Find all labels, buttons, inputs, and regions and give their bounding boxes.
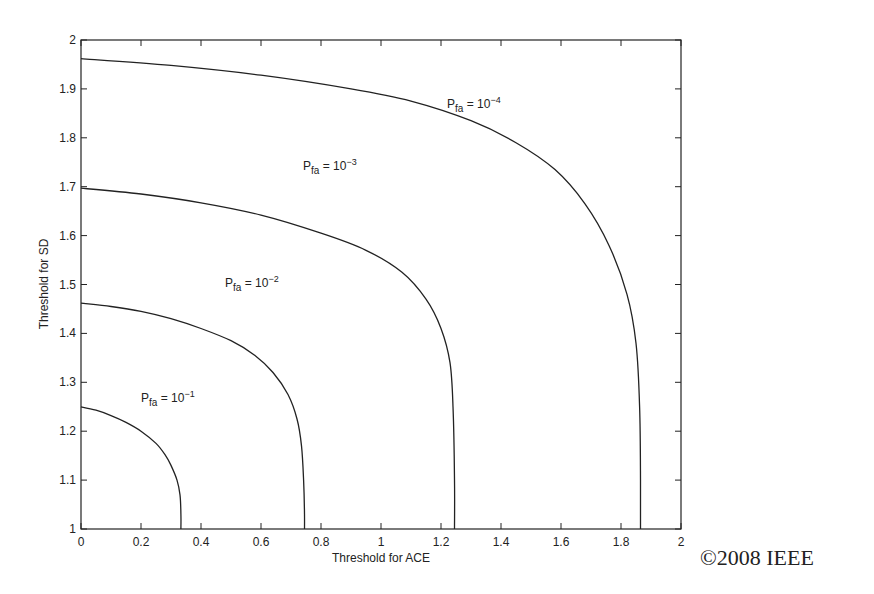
x-tick-label: 1.8: [613, 535, 630, 549]
y-tick-label: 1.1: [59, 473, 76, 487]
x-tick-label: 0.6: [253, 535, 270, 549]
x-tick-label: 0.4: [193, 535, 210, 549]
plot-frame: [81, 40, 681, 529]
curve-label: Pfa = 10−3: [303, 157, 357, 176]
y-tick-label: 1.2: [59, 424, 76, 438]
curve-pfa-3: [81, 188, 455, 529]
y-axis-label: Threshold for SD: [37, 238, 51, 329]
y-tick-label: 1.9: [59, 82, 76, 96]
x-tick-label: 0.8: [313, 535, 330, 549]
y-tick-label: 1.7: [59, 180, 76, 194]
y-tick-label: 1.4: [59, 326, 76, 340]
x-tick-label: 1.4: [493, 535, 510, 549]
x-tick-label: 1.2: [433, 535, 450, 549]
curve-label: Pfa = 10−2: [225, 274, 279, 293]
curve-label: Pfa = 10−1: [141, 389, 195, 408]
y-tick-label: 1.3: [59, 375, 76, 389]
x-tick-label: 0.2: [133, 535, 150, 549]
x-tick-label: 1: [378, 535, 385, 549]
plot-area: [81, 40, 681, 529]
curve-labels: Pfa = 10−1Pfa = 10−2Pfa = 10−3Pfa = 10−4: [141, 95, 501, 407]
x-tick-label: 0: [78, 535, 85, 549]
chart: 00.20.40.60.811.21.41.61.82 11.11.21.31.…: [0, 0, 874, 594]
curve-pfa-1: [81, 407, 181, 529]
x-tick-label: 1.6: [553, 535, 570, 549]
x-tick-label: 2: [678, 535, 685, 549]
y-tick-label: 1: [69, 522, 76, 536]
y-tick-label: 1.6: [59, 229, 76, 243]
curve-label: Pfa = 10−4: [447, 95, 501, 114]
x-axis: 00.20.40.60.811.21.41.61.82: [78, 40, 685, 549]
curves: [81, 59, 641, 529]
copyright-notice: ©2008 IEEE: [700, 545, 814, 571]
curve-pfa-2: [81, 303, 305, 529]
y-axis: 11.11.21.31.41.51.61.71.81.92: [59, 33, 681, 536]
y-tick-label: 1.5: [59, 278, 76, 292]
curve-pfa-4: [81, 59, 641, 529]
y-tick-label: 1.8: [59, 131, 76, 145]
x-axis-label: Threshold for ACE: [332, 551, 430, 565]
y-tick-label: 2: [69, 33, 76, 47]
